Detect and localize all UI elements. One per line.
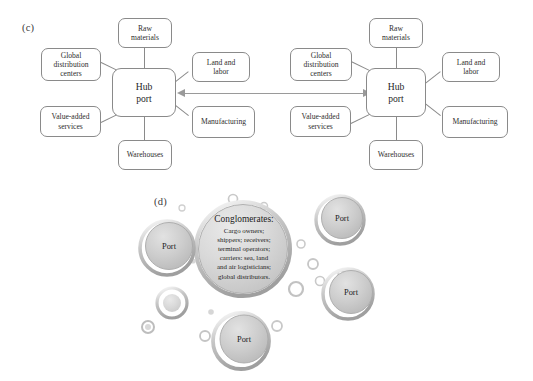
node-global-distribution-centers[interactable]: Global distribution centers — [41, 48, 101, 81]
node-text-line1: Manufacturing — [452, 117, 497, 126]
node-value-added-services[interactable]: Value-added services — [40, 106, 101, 137]
node-text-line2: labor — [463, 67, 479, 76]
node-text-line1: Manufacturing — [201, 117, 246, 126]
node-warehouses[interactable]: Warehouses — [118, 140, 172, 170]
node-text-line2: labor — [213, 67, 229, 76]
node-manufacturing[interactable]: Manufacturing — [442, 106, 508, 138]
hub-text-line2: port — [388, 93, 403, 104]
node-global-distribution-centers[interactable]: Global distribution centers — [290, 48, 352, 81]
inter-hub-arrow-head-left — [177, 89, 185, 97]
node-text-line1: Land and — [457, 58, 485, 67]
node-text-line1: Global — [311, 51, 332, 60]
node-manufacturing[interactable]: Manufacturing — [192, 106, 255, 138]
node-text-line1: Value-added — [302, 112, 340, 121]
node-text-line2: distribution — [53, 60, 88, 69]
port-bubble-bottom[interactable] — [213, 313, 269, 369]
port-bubble-top-right[interactable] — [316, 196, 364, 244]
left-hub-network: Raw materials Global distribution center… — [0, 0, 268, 190]
node-land-and-labor[interactable]: Land and labor — [442, 52, 500, 82]
node-text-line2: materials — [131, 33, 159, 42]
port-bubble-right[interactable] — [323, 269, 373, 319]
node-raw-materials[interactable]: Raw materials — [369, 18, 423, 48]
central-bubble[interactable] — [196, 202, 290, 296]
node-value-added-services[interactable]: Value-added services — [290, 106, 351, 137]
node-text-line2: materials — [382, 33, 410, 42]
bubble-diagram — [0, 186, 533, 381]
connector-warehouses — [396, 114, 397, 142]
connector-warehouses — [144, 114, 145, 142]
node-text-line1: Warehouses — [378, 150, 415, 159]
hub-text-line1: Hub — [388, 81, 405, 92]
node-warehouses[interactable]: Warehouses — [369, 140, 423, 170]
node-text-line1: Raw — [389, 24, 403, 33]
node-text-line1: Land and — [207, 58, 235, 67]
node-text-line2: services — [58, 122, 82, 131]
node-hub-port[interactable]: Hub port — [112, 68, 176, 117]
connector-value-added-services — [351, 113, 371, 124]
node-text-line1: Warehouses — [127, 150, 164, 159]
node-text-line3: centers — [60, 69, 82, 78]
node-text-line1: Global — [61, 51, 82, 60]
node-text-line2: distribution — [303, 60, 338, 69]
node-text-line1: Raw — [138, 24, 152, 33]
right-hub-network: Raw materials Global distribution center… — [268, 0, 533, 190]
node-text-line3: centers — [310, 69, 332, 78]
hub-text-line1: Hub — [136, 81, 153, 92]
hub-text-line2: port — [136, 93, 151, 104]
node-text-line1: Value-added — [52, 112, 90, 121]
figure-root: (c) Raw materials Global distribution ce… — [0, 0, 533, 381]
bubble-diagram-svg — [0, 186, 533, 381]
node-hub-port[interactable]: Hub port — [366, 68, 426, 117]
node-land-and-labor[interactable]: Land and labor — [192, 52, 250, 82]
port-bubble-left[interactable] — [140, 221, 194, 275]
node-raw-materials[interactable]: Raw materials — [118, 18, 172, 48]
inter-hub-arrow-shaft — [184, 93, 364, 95]
node-text-line2: services — [308, 122, 332, 131]
